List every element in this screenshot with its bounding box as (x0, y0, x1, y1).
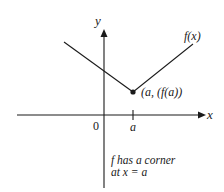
x-axis-arrow-icon (198, 112, 206, 119)
point-label: (a, (f(a)) (141, 86, 182, 98)
corner-point (130, 89, 135, 94)
tick-a-label: a (130, 121, 136, 133)
origin-label: 0 (93, 120, 99, 132)
annotation-line-1: f has a corner (111, 155, 175, 167)
annotation-line-2: at x = a (111, 167, 147, 179)
corner-function-diagram: y x 0 a f(x) (a, (f(a)) f has a corner a… (0, 0, 224, 192)
y-axis-arrow-icon (101, 29, 108, 37)
y-axis-label: y (95, 14, 101, 27)
left-branch-line (64, 42, 133, 92)
curve-label: f(x) (184, 30, 201, 42)
x-axis-label: x (207, 108, 213, 121)
